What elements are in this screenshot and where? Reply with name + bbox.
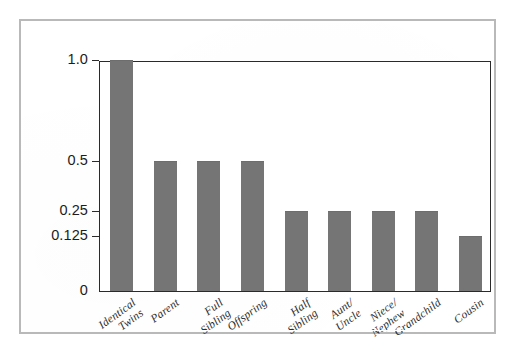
x-axis-tick-label: HalfSibling — [277, 296, 319, 336]
y-axis: 1.00.50.250.1250 — [21, 61, 99, 292]
bar — [110, 60, 133, 291]
bar — [459, 236, 482, 291]
x-axis-tick-label: Cousin — [452, 296, 487, 326]
x-axis-tick-label: Aunt/Uncle — [326, 296, 364, 333]
y-axis-tick-label: 1.0 — [68, 51, 88, 67]
bar — [285, 211, 308, 291]
x-axis: IdenticalTwinsParentFullSiblingOffspring… — [99, 292, 491, 351]
y-axis-tick-mark — [92, 236, 99, 237]
bar — [415, 211, 438, 291]
y-axis-tick-label: 0.125 — [51, 227, 88, 243]
bar — [154, 161, 177, 291]
y-axis-tick-mark — [92, 211, 99, 212]
x-axis-tick-label: IdenticalTwins — [96, 296, 145, 341]
bars-container — [100, 62, 490, 291]
x-axis-tick-label: Parent — [148, 296, 181, 325]
plot-area — [99, 61, 491, 292]
bar — [197, 161, 220, 291]
bar — [372, 211, 395, 291]
y-axis-tick-label: 0.25 — [59, 202, 88, 218]
y-axis-tick-label: 0 — [80, 282, 88, 298]
bar — [241, 161, 264, 291]
y-axis-tick-mark — [92, 60, 99, 61]
figure-outer-frame: 1.00.50.250.1250 IdenticalTwinsParentFul… — [19, 19, 496, 334]
x-axis-tick-label: FullSibling — [190, 296, 232, 336]
bar — [328, 211, 351, 291]
y-axis-tick-mark — [92, 161, 99, 162]
y-axis-tick-label: 0.5 — [68, 152, 88, 168]
